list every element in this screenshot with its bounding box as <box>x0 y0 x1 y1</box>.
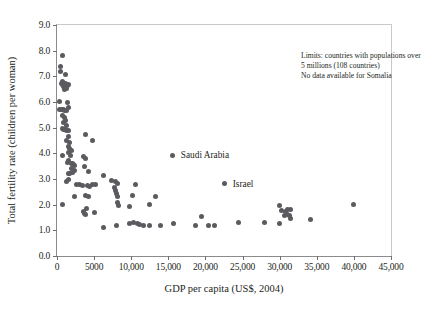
data-point <box>92 210 97 215</box>
x-axis-title: GDP per capita (US$, 2004) <box>56 283 392 294</box>
data-point <box>62 87 67 92</box>
y-tick-label: 3.0 <box>39 174 50 184</box>
data-point <box>277 221 282 226</box>
x-tick-mark <box>94 256 95 260</box>
x-tick-mark <box>57 256 58 260</box>
y-axis-title: Total fertility rate (children per woman… <box>6 24 20 257</box>
data-point <box>83 132 88 137</box>
data-point <box>115 194 120 199</box>
data-point <box>67 171 72 176</box>
y-tick-label: 9.0 <box>39 20 50 30</box>
x-tick-mark <box>391 256 392 260</box>
x-tick-mark <box>168 256 169 260</box>
data-point <box>133 182 138 187</box>
data-point <box>282 213 287 218</box>
data-point <box>60 53 65 58</box>
x-tick-mark <box>243 256 244 260</box>
data-point <box>83 156 88 161</box>
y-tick-label: 8.0 <box>39 46 50 56</box>
data-point <box>101 173 106 178</box>
y-tick-label: 0.0 <box>39 251 50 261</box>
x-tick-label: 40,000 <box>341 262 366 272</box>
data-point <box>64 108 69 113</box>
data-point <box>66 128 71 133</box>
data-point <box>288 216 293 221</box>
data-point <box>93 182 98 187</box>
x-tick-label: 10,000 <box>119 262 144 272</box>
data-point <box>64 179 69 184</box>
data-point <box>83 212 88 217</box>
y-tick-label: 4.0 <box>39 148 50 158</box>
data-point <box>65 100 70 105</box>
x-tick-label: 20,000 <box>193 262 218 272</box>
data-point <box>153 194 158 199</box>
y-tick-label: 7.0 <box>39 71 50 81</box>
data-point <box>141 223 146 228</box>
data-point <box>127 204 132 209</box>
data-point <box>158 223 163 228</box>
data-point <box>236 220 241 225</box>
annotation-line: 5 millions (108 countries) <box>301 61 421 71</box>
x-tick-mark <box>354 256 355 260</box>
annotation-line: No data available for Somalia <box>301 71 421 81</box>
y-tick-label: 6.0 <box>39 97 50 107</box>
x-tick-mark <box>131 256 132 260</box>
x-tick-mark <box>205 256 206 260</box>
data-point <box>199 214 204 219</box>
data-point <box>193 223 198 228</box>
data-point <box>72 194 77 199</box>
data-point <box>308 217 313 222</box>
data-point <box>116 203 121 208</box>
x-tick-label: 0 <box>55 262 60 272</box>
data-point-labeled <box>170 153 175 158</box>
annotation-line: Limits: countries with populations over <box>301 51 421 61</box>
data-point <box>90 138 95 143</box>
data-point <box>171 221 176 226</box>
chart-annotation-note: Limits: countries with populations over5… <box>301 51 421 81</box>
x-tick-label: 45,000 <box>379 262 404 272</box>
data-point <box>351 202 356 207</box>
data-point <box>147 202 152 207</box>
data-point <box>212 223 217 228</box>
data-point <box>130 193 135 198</box>
plot-area: 0.01.02.03.04.05.06.07.08.09.0 0500010,0… <box>56 24 392 257</box>
y-tick-label: 5.0 <box>39 123 50 133</box>
data-point <box>147 223 152 228</box>
x-tick-mark <box>317 256 318 260</box>
data-point-label: Saudi Arabia <box>181 150 229 160</box>
data-point-label: Israel <box>233 179 254 189</box>
x-tick-label: 5000 <box>85 262 103 272</box>
data-point <box>60 153 65 158</box>
data-point <box>86 169 91 174</box>
data-point <box>60 202 65 207</box>
data-point <box>57 99 62 104</box>
data-point <box>63 72 68 77</box>
y-tick-label: 2.0 <box>39 200 50 210</box>
data-point <box>288 207 293 212</box>
x-tick-mark <box>280 256 281 260</box>
data-point <box>206 223 211 228</box>
data-point <box>101 225 106 230</box>
x-tick-label: 35,000 <box>304 262 329 272</box>
data-point <box>86 194 91 199</box>
data-point <box>114 223 119 228</box>
x-tick-label: 25,000 <box>230 262 255 272</box>
x-tick-label: 30,000 <box>267 262 292 272</box>
data-point <box>262 220 267 225</box>
x-tick-label: 15,000 <box>156 262 181 272</box>
y-tick-label: 1.0 <box>39 225 50 235</box>
